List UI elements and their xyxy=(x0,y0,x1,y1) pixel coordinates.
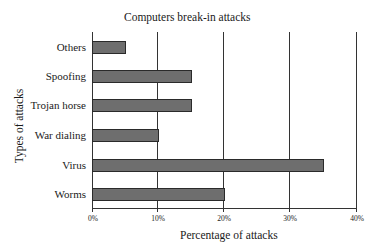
x-tick-label: 0% xyxy=(88,214,98,223)
bar-worms xyxy=(92,188,225,201)
category-label: Virus xyxy=(62,159,86,171)
x-tick-label: 10% xyxy=(151,214,165,223)
category-label: Trojan horse xyxy=(30,99,86,111)
bar-war-dialing xyxy=(92,129,159,142)
x-tick xyxy=(289,208,290,212)
x-tick-label: 20% xyxy=(217,214,231,223)
category-label: Others xyxy=(57,41,86,53)
bar-virus xyxy=(92,159,324,172)
gridline-20 xyxy=(223,32,224,208)
gridline-10 xyxy=(157,32,158,208)
x-tick xyxy=(92,208,93,212)
category-label: Spoofing xyxy=(46,70,86,82)
bar-others xyxy=(92,41,126,54)
x-tick xyxy=(157,208,158,212)
gridline-40 xyxy=(356,32,357,208)
x-tick xyxy=(223,208,224,212)
x-tick-label: 30% xyxy=(283,214,297,223)
gridline-30 xyxy=(289,32,290,208)
x-axis-label: Percentage of attacks xyxy=(180,229,278,241)
y-axis-label: Types of attacks xyxy=(13,89,25,164)
y-axis-line xyxy=(92,32,93,208)
bar-spoofing xyxy=(92,70,192,83)
chart-plot-area: Computers break-in attacks Types of atta… xyxy=(0,0,388,247)
x-axis-line xyxy=(92,208,357,209)
category-label: War dialing xyxy=(35,129,86,141)
x-tick xyxy=(356,208,357,212)
bar-trojan-horse xyxy=(92,99,192,112)
chart-title: Computers break-in attacks xyxy=(124,11,250,23)
category-label: Worms xyxy=(54,188,86,200)
x-tick-label: 40% xyxy=(350,214,364,223)
